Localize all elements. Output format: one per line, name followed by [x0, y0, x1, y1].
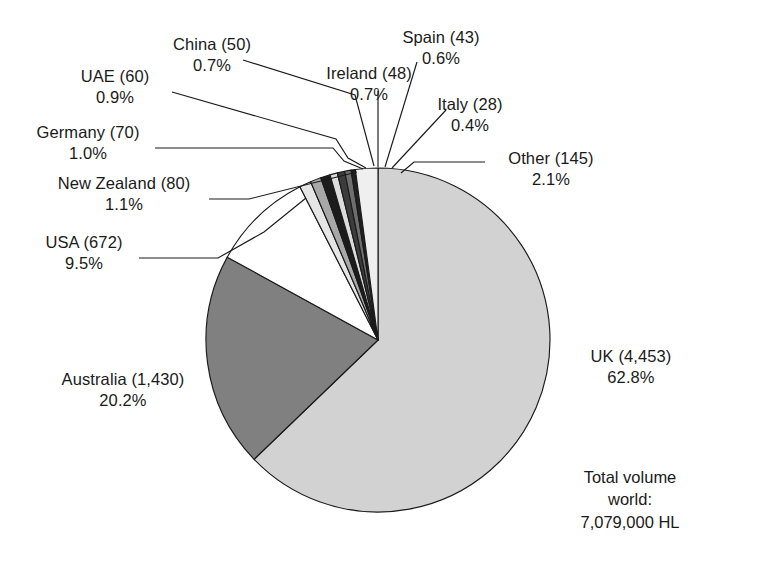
callout-australia-percent: 20.2%: [39, 390, 207, 411]
callout-uk-label: UK (4,453): [570, 346, 692, 367]
callout-new-zealand-percent: 1.1%: [43, 194, 205, 215]
callout-uae-percent: 0.9%: [60, 87, 170, 108]
callout-italy-percent: 0.4%: [420, 115, 520, 136]
callout-uk: UK (4,453) 62.8%: [570, 346, 692, 388]
callout-germany-percent: 1.0%: [24, 143, 152, 164]
callout-uk-percent: 62.8%: [570, 367, 692, 388]
callout-italy-label: Italy (28): [420, 94, 520, 115]
total-volume-note: Total volume world: 7,079,000 HL: [555, 466, 705, 533]
total-volume-line1: Total volume: [555, 466, 705, 488]
pie-chart-figure: China (50) 0.7% UAE (60) 0.9% Germany (7…: [0, 0, 762, 561]
callout-other-percent: 2.1%: [489, 169, 613, 190]
total-volume-line3: 7,079,000 HL: [555, 511, 705, 533]
callout-usa: USA (672) 9.5%: [32, 232, 136, 274]
callout-spain-label: Spain (43): [388, 27, 494, 48]
callout-other-label: Other (145): [489, 148, 613, 169]
callout-china-percent: 0.7%: [152, 55, 272, 76]
callout-ireland-percent: 0.7%: [310, 84, 428, 105]
callout-china-label: China (50): [152, 34, 272, 55]
total-volume-line2: world:: [555, 488, 705, 510]
callout-other: Other (145) 2.1%: [489, 148, 613, 190]
callout-ireland: Ireland (48) 0.7%: [310, 63, 428, 105]
callout-australia-label: Australia (1,430): [39, 369, 207, 390]
leader-line-germany: [155, 148, 363, 169]
callout-usa-percent: 9.5%: [32, 253, 136, 274]
callout-new-zealand-label: New Zealand (80): [43, 173, 205, 194]
callout-italy: Italy (28) 0.4%: [420, 94, 520, 136]
callout-uae-label: UAE (60): [60, 66, 170, 87]
pie-slices-group: [206, 168, 550, 512]
callout-ireland-label: Ireland (48): [310, 63, 428, 84]
callout-uae: UAE (60) 0.9%: [60, 66, 170, 108]
callout-new-zealand: New Zealand (80) 1.1%: [43, 173, 205, 215]
callout-china: China (50) 0.7%: [152, 34, 272, 76]
callout-germany: Germany (70) 1.0%: [24, 122, 152, 164]
callout-australia: Australia (1,430) 20.2%: [39, 369, 207, 411]
callout-germany-label: Germany (70): [24, 122, 152, 143]
callout-usa-label: USA (672): [32, 232, 136, 253]
